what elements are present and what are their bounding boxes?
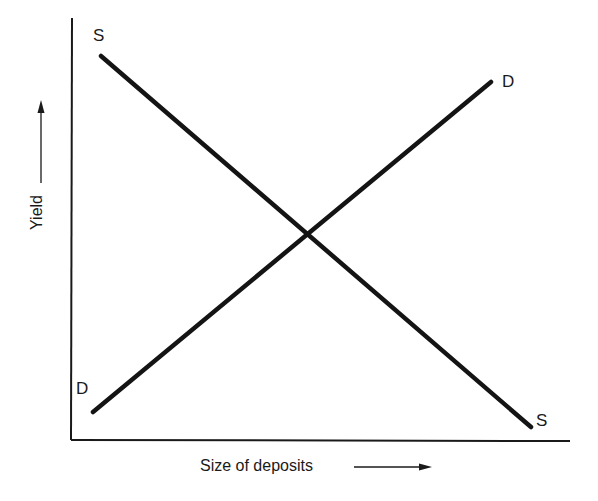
up-arrow-icon	[38, 100, 45, 113]
demand-curve	[93, 82, 491, 412]
supply-label-bottom: S	[536, 412, 547, 429]
demand-label-bottom: D	[76, 380, 88, 397]
y-axis-label: Yield	[28, 195, 46, 230]
right-arrow-icon	[419, 464, 432, 471]
demand-label-top: D	[502, 73, 514, 90]
y-axis	[71, 18, 72, 440]
x-axis-label: Size of deposits	[200, 458, 313, 474]
supply-curve	[101, 56, 531, 427]
x-axis	[71, 440, 570, 441]
supply-label-top: S	[93, 27, 104, 44]
